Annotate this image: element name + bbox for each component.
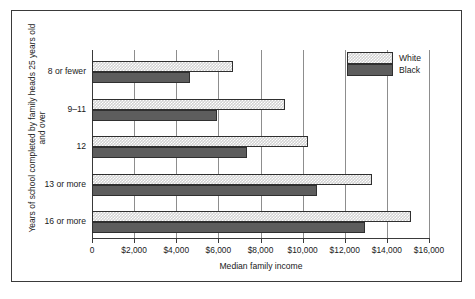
- bar-white-1: [92, 99, 285, 110]
- category-label: 9–11: [0, 104, 86, 114]
- bar-black-2: [92, 147, 247, 158]
- gridline: [345, 50, 346, 238]
- bar-black-3: [92, 185, 317, 196]
- bar-black-4: [92, 222, 365, 233]
- legend-swatch-black: [347, 64, 393, 76]
- bar-black-1: [92, 110, 217, 121]
- chart-figure: Years of school completed by family head…: [0, 0, 475, 299]
- legend-label-white: White: [399, 53, 421, 63]
- x-axis-tick: [345, 239, 346, 243]
- category-label: 12: [0, 141, 86, 151]
- category-label: 13 or more: [0, 179, 86, 189]
- legend-swatch-white: [347, 52, 393, 64]
- x-axis-tick: [261, 239, 262, 243]
- legend-item-black: Black: [347, 64, 443, 76]
- bar-white-0: [92, 61, 233, 72]
- category-label: 16 or more: [0, 216, 86, 226]
- x-axis-tick: [387, 239, 388, 243]
- x-axis-tick: [134, 239, 135, 243]
- bar-black-0: [92, 72, 190, 83]
- bar-white-3: [92, 174, 372, 185]
- x-axis-tick: [92, 239, 93, 243]
- x-axis-tick: [303, 239, 304, 243]
- x-axis-tick: [429, 239, 430, 243]
- x-axis-title: Median family income: [92, 261, 430, 271]
- category-label: 8 or fewer: [0, 66, 86, 76]
- bar-white-4: [92, 211, 411, 222]
- chart-legend: White Black: [347, 52, 443, 82]
- legend-label-black: Black: [399, 65, 420, 75]
- bar-white-2: [92, 136, 308, 147]
- y-axis-title-line1: Years of school completed by family head…: [27, 23, 37, 232]
- legend-item-white: White: [347, 52, 443, 64]
- x-axis-tick: [218, 239, 219, 243]
- x-axis-tick: [176, 239, 177, 243]
- x-axis-tick-label: $16,000: [399, 245, 459, 255]
